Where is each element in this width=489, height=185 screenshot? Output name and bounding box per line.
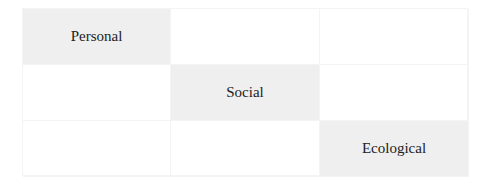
diagonal-matrix: Personal Social Ecological bbox=[22, 8, 468, 176]
cell-empty bbox=[171, 121, 320, 177]
cell-empty bbox=[23, 121, 171, 177]
cell-social: Social bbox=[171, 65, 320, 121]
cell-empty bbox=[320, 65, 469, 121]
cell-personal: Personal bbox=[23, 9, 171, 65]
cell-ecological: Ecological bbox=[320, 121, 469, 177]
cell-empty bbox=[320, 9, 469, 65]
cell-empty bbox=[171, 9, 320, 65]
cell-empty bbox=[23, 65, 171, 121]
